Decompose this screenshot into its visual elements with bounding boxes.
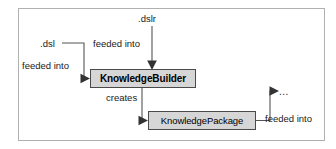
node-knowledgepackage-label: KnowledgePackage [161,115,243,126]
node-knowledgebuilder-label: KnowledgeBuilder [100,73,186,84]
edge-label-feeded-into-dslr: feeded into [93,38,140,49]
diagram-canvas: .dslr .dsl ... feeded into feeded into c… [0,0,336,149]
node-knowledgebuilder: KnowledgeBuilder [90,69,196,88]
source-label-dsl: .dsl [40,38,55,49]
edge-label-feeded-into-package: feeded into [265,113,312,124]
edge-label-creates: creates [106,92,137,103]
source-label-dslr: .dslr [138,13,156,24]
source-label-ellipsis: ... [279,86,289,97]
node-knowledgepackage: KnowledgePackage [148,111,256,130]
edge-label-feeded-into-dsl: feeded into [22,60,69,71]
